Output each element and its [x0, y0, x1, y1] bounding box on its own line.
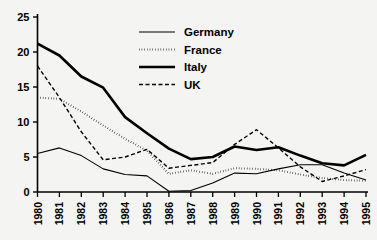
y-tick-label: 25 — [17, 11, 29, 23]
legend-label-italy: Italy — [184, 61, 208, 73]
x-tick-label: 1988 — [207, 202, 219, 226]
legend-label-germany: Germany — [184, 26, 234, 38]
y-axis: 0510152025 — [17, 11, 37, 198]
y-tick-label: 0 — [23, 186, 29, 198]
y-tick-label: 5 — [23, 151, 29, 163]
x-axis: 1980198119821983198419851986198719881989… — [32, 192, 373, 225]
x-tick-label: 1984 — [119, 202, 131, 226]
x-tick-label: 1981 — [53, 202, 65, 226]
x-tick-label: 1993 — [316, 202, 328, 226]
series-line-germany — [38, 148, 367, 191]
x-tick-label: 1995 — [360, 202, 372, 226]
chart-plot-area: 0510152025 19801981198219831984198519861… — [0, 0, 377, 240]
x-tick-label: 1994 — [338, 202, 350, 226]
y-tick-label: 15 — [17, 81, 29, 93]
x-tick-label: 1991 — [272, 202, 284, 226]
x-tick-label: 1985 — [141, 202, 153, 226]
x-tick-label: 1990 — [251, 202, 263, 226]
y-tick-label: 20 — [17, 46, 29, 58]
line-chart: 0510152025 19801981198219831984198519861… — [0, 0, 377, 240]
x-tick-label: 1982 — [75, 202, 87, 226]
y-tick-label: 10 — [17, 116, 29, 128]
legend-label-uk: UK — [184, 79, 201, 91]
chart-legend: GermanyFranceItalyUK — [139, 26, 234, 91]
legend-label-france: France — [184, 44, 222, 56]
x-tick-label: 1980 — [32, 202, 44, 226]
x-tick-label: 1987 — [185, 202, 197, 226]
x-tick-label: 1983 — [97, 202, 109, 226]
x-tick-label: 1989 — [229, 202, 241, 226]
x-tick-label: 1992 — [294, 202, 306, 226]
x-tick-label: 1986 — [163, 202, 175, 226]
